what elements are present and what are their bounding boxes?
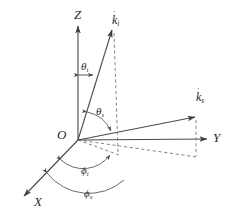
incident-vector-vertical-projection [114,33,118,152]
theta-i-label: θi [81,61,88,74]
origin-label: O [57,128,66,141]
incident-vector-subscript: i [117,19,119,28]
incident-wave-vector-label: ˙ k i [112,14,119,28]
phi-s-subscript: s [90,193,93,200]
scattered-vector-accent: ˙ [197,87,200,96]
incident-ground-projection [78,140,119,155]
scattered-wave-vector-arrow [78,117,195,140]
phi-i-subscript: i [87,170,89,177]
theta-s-subscript: s [101,111,104,118]
scattered-ground-projection [78,140,197,157]
scattered-wave-vector-label: ˙ k s [196,91,204,105]
theta-i-subscript: i [86,66,88,73]
x-axis [24,140,78,196]
diagram-canvas [0,0,239,222]
x-axis-label: X [34,195,42,208]
incident-vector-accent: ˙ [113,10,116,19]
phi-s-label: ϕs [84,188,92,201]
scattered-vector-subscript: s [201,96,204,105]
phi-i-label: ϕi [81,165,89,178]
y-axis-label: Y [213,131,220,144]
y-axis [78,139,207,140]
theta-s-label: θs [96,106,104,119]
z-axis-label: Z [74,8,81,21]
scattering-geometry-diagram: Z Y X O ˙ k i ˙ k s θi θs ϕi ϕs [0,0,239,222]
